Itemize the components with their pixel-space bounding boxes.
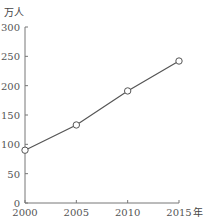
line-chart: 050100150200250300 2000200520102015年 万人 — [0, 0, 206, 223]
y-tick-label: 100 — [1, 139, 20, 150]
y-axis-unit-label: 万人 — [4, 7, 24, 18]
x-axis-unit-label: 年 — [193, 206, 203, 218]
y-tick-label: 200 — [1, 81, 20, 92]
x-tick-label: 2005 — [64, 207, 89, 218]
x-tick-label: 2015 — [166, 207, 191, 218]
data-point-marker — [73, 122, 79, 128]
x-tick-label: 2010 — [115, 207, 140, 218]
data-point-marker — [124, 88, 130, 94]
series-line — [25, 61, 179, 150]
y-tick-label: 50 — [7, 169, 20, 180]
y-tick-label: 150 — [1, 110, 20, 121]
data-point-marker — [176, 58, 182, 64]
data-series — [22, 58, 182, 154]
y-tick-label: 300 — [1, 22, 20, 33]
data-point-marker — [22, 147, 28, 153]
y-axis: 050100150200250300 — [1, 22, 28, 209]
x-axis: 2000200520102015年 — [12, 200, 203, 218]
y-tick-label: 250 — [1, 51, 20, 62]
x-tick-label: 2000 — [12, 207, 37, 218]
